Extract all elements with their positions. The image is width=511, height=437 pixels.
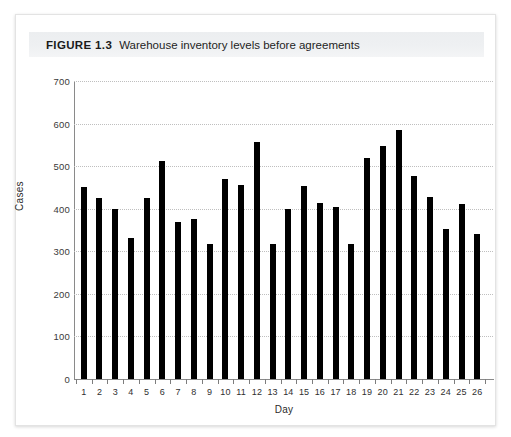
bar: [96, 198, 102, 379]
x-axis-tick: [92, 379, 93, 384]
bar: [427, 197, 433, 379]
y-axis-tick-labels: 0100200300400500600700: [38, 81, 70, 379]
y-axis-tick-label: 200: [42, 288, 70, 299]
x-axis-tick: [170, 379, 171, 384]
x-axis-tick-label: 7: [170, 387, 186, 397]
x-axis-tick: [186, 379, 187, 384]
bar: [380, 146, 386, 379]
bar: [285, 209, 291, 379]
x-axis-tick: [438, 379, 439, 384]
x-axis-tick: [265, 379, 266, 384]
x-axis-tick: [391, 379, 392, 384]
x-axis-tick: [249, 379, 250, 384]
x-axis-tick-label: 6: [154, 387, 170, 397]
x-axis-tick-label: 25: [454, 387, 470, 397]
y-axis-tick-label: 600: [42, 118, 70, 129]
x-axis-tick-label: 15: [296, 387, 312, 397]
bar: [159, 161, 165, 379]
bar: [175, 222, 181, 380]
x-axis-tick: [469, 379, 470, 384]
bar-chart: 0100200300400500600700 Cases 12345678910…: [16, 15, 497, 427]
x-axis-tick-label: 4: [123, 387, 139, 397]
y-axis-tick-label: 100: [42, 331, 70, 342]
x-axis-tick: [359, 379, 360, 384]
x-axis-tick-label: 17: [328, 387, 344, 397]
x-axis-tick: [375, 379, 376, 384]
x-axis-title: Day: [74, 404, 494, 415]
x-axis-tick-label: 23: [422, 387, 438, 397]
x-axis-tick: [281, 379, 282, 384]
x-axis-tick-label: 13: [265, 387, 281, 397]
y-axis-tick-label: 300: [42, 246, 70, 257]
bar: [317, 203, 323, 379]
x-axis-tick: [76, 379, 77, 384]
bar: [207, 244, 213, 379]
bar: [222, 179, 228, 379]
x-axis-tick-label: 8: [186, 387, 202, 397]
y-axis-title: Cases: [14, 181, 25, 211]
x-axis-tick: [422, 379, 423, 384]
x-axis-tick-label: 12: [249, 387, 265, 397]
x-axis-tick: [218, 379, 219, 384]
x-axis-tick-label: 18: [343, 387, 359, 397]
bar: [238, 185, 244, 379]
y-axis-tick-label: 400: [42, 203, 70, 214]
x-axis-tick: [233, 379, 234, 384]
x-axis-line: [74, 379, 494, 380]
x-axis-tick-label: 14: [280, 387, 296, 397]
x-axis-tick-label: 2: [91, 387, 107, 397]
x-axis-tick: [406, 379, 407, 384]
x-axis-tick-label: 19: [359, 387, 375, 397]
x-axis-tick-label: 22: [406, 387, 422, 397]
x-axis-tick-label: 20: [375, 387, 391, 397]
x-axis-tick: [312, 379, 313, 384]
y-axis-tick-label: 500: [42, 161, 70, 172]
bar: [364, 158, 370, 379]
x-axis-tick-label: 26: [469, 387, 485, 397]
x-axis-tick: [454, 379, 455, 384]
y-axis-tick-label: 0: [42, 374, 70, 385]
bar: [443, 229, 449, 379]
x-axis-tick-label: 11: [233, 387, 249, 397]
bar: [474, 234, 480, 379]
x-axis-tick-label: 21: [391, 387, 407, 397]
x-axis-tick: [343, 379, 344, 384]
bar: [81, 187, 87, 379]
bar: [191, 219, 197, 379]
bar: [301, 186, 307, 379]
x-axis-tick-label: 5: [139, 387, 155, 397]
x-axis-tick-label: 1: [76, 387, 92, 397]
x-axis-tick-label: 3: [107, 387, 123, 397]
x-axis-tick-label: 24: [438, 387, 454, 397]
y-axis-tick-label: 700: [42, 76, 70, 87]
bar: [112, 209, 118, 379]
x-axis-tick: [328, 379, 329, 384]
x-axis-tick-label: 9: [202, 387, 218, 397]
bar: [270, 244, 276, 379]
bar: [144, 198, 150, 379]
bar: [348, 244, 354, 379]
bar: [254, 142, 260, 379]
x-axis-tick: [202, 379, 203, 384]
bar: [459, 204, 465, 379]
x-axis-tick: [139, 379, 140, 384]
bar: [333, 207, 339, 379]
x-axis-tick: [485, 379, 486, 384]
x-axis-tick: [296, 379, 297, 384]
x-axis-tick-label: 16: [312, 387, 328, 397]
x-axis-tick: [155, 379, 156, 384]
bar-series: [74, 81, 493, 379]
x-axis-tick: [107, 379, 108, 384]
x-axis-tick: [123, 379, 124, 384]
figure-card: FIGURE 1.3 Warehouse inventory levels be…: [15, 14, 496, 426]
bar: [128, 238, 134, 379]
bar: [396, 130, 402, 379]
bar: [411, 176, 417, 379]
x-axis-tick-label: 10: [217, 387, 233, 397]
